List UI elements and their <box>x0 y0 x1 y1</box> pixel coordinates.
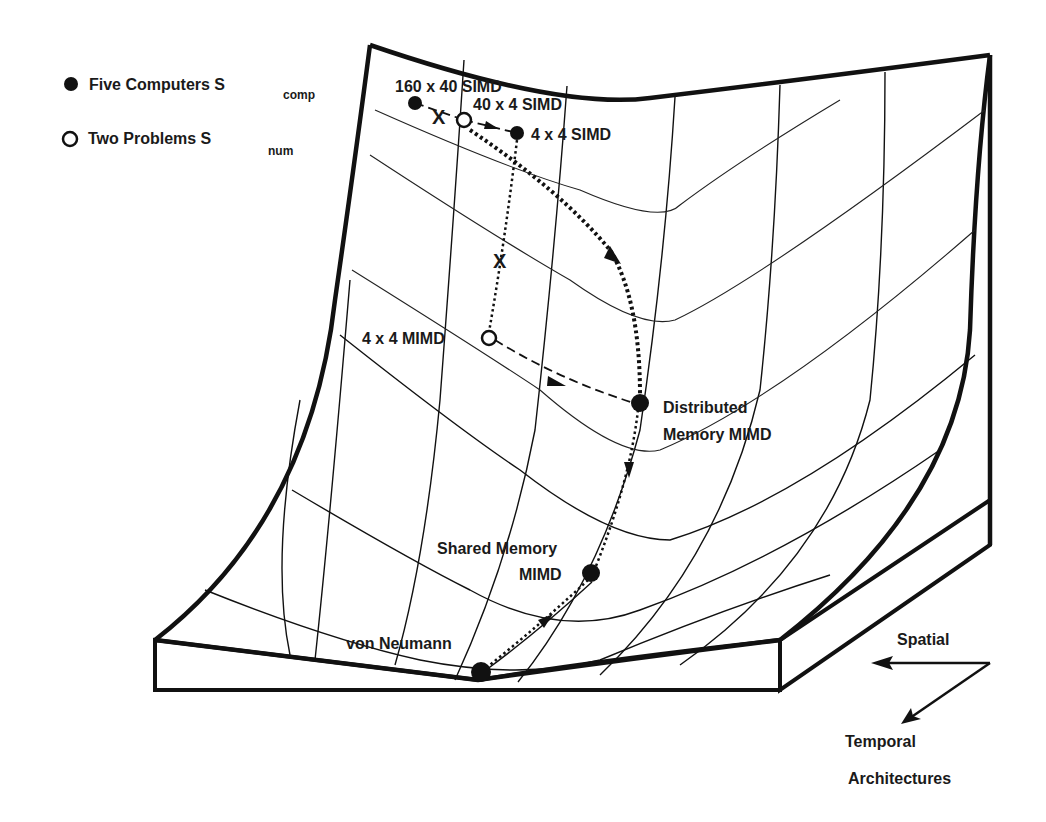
legend-computers-subscript: comp <box>283 88 315 102</box>
legend-filled-circle-icon <box>64 77 78 91</box>
legend-computers-label: Five Computers S <box>89 76 225 93</box>
x-mark: X <box>432 106 446 128</box>
legend-problems-subscript: num <box>268 144 293 158</box>
label-160x40-simd: 160 x 40 SIMD <box>395 78 502 95</box>
spatial-label: Spatial <box>897 631 949 648</box>
architecture-landscape-diagram: X X 160 x 40 SIMD 40 x 4 SIMD 4 x 4 SIMD… <box>0 0 1046 822</box>
point-von-neumann <box>471 662 491 682</box>
axis-indicator: Spatial Temporal Architectures <box>845 631 990 787</box>
label-shared-mimd: MIMD <box>519 566 562 583</box>
point-4x4-mimd <box>482 331 496 345</box>
legend-problems-label: Two Problems S <box>88 130 212 147</box>
x-mark: X <box>493 250 507 272</box>
temporal-arrow <box>910 663 990 718</box>
label-4x4-simd: 4 x 4 SIMD <box>531 126 611 143</box>
label-distributed: Distributed <box>663 399 747 416</box>
point-labels: 160 x 40 SIMD 40 x 4 SIMD 4 x 4 SIMD 4 x… <box>346 78 771 652</box>
computer-points <box>408 96 649 682</box>
temporal-label: Temporal <box>845 733 916 750</box>
legend: Five Computers S comp Two Problems S num <box>63 76 315 158</box>
label-von-neumann: von Neumann <box>346 635 452 652</box>
point-shared-memory-mimd <box>582 564 600 582</box>
point-40x4-simd <box>457 113 471 127</box>
architectures-caption: Architectures <box>848 770 951 787</box>
point-distributed-memory-mimd <box>631 394 649 412</box>
label-40x4-simd: 40 x 4 SIMD <box>473 96 562 113</box>
point-160x40-simd <box>408 96 422 110</box>
legend-open-circle-icon <box>63 132 77 146</box>
label-shared-memory: Shared Memory <box>437 540 557 557</box>
temporal-arrowhead-icon <box>901 708 921 724</box>
label-memory-mimd: Memory MIMD <box>663 426 771 443</box>
trajectories <box>415 103 640 670</box>
label-4x4-mimd: 4 x 4 MIMD <box>362 330 445 347</box>
point-4x4-simd <box>510 126 524 140</box>
